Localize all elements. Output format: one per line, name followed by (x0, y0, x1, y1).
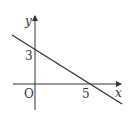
x-intercept-label: 5 (82, 87, 90, 101)
y-axis-label: y (24, 14, 32, 28)
y-intercept-label: 3 (25, 49, 33, 63)
origin-label: O (24, 87, 34, 101)
graph-figure: y x O 3 5 (0, 0, 132, 117)
x-axis-label: x (115, 86, 122, 100)
coordinate-plane: y x O 3 5 (0, 0, 132, 117)
